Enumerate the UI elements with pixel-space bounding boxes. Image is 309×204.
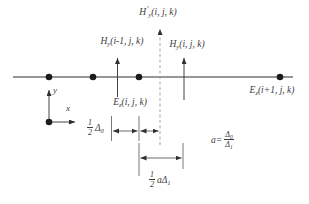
grid-node-dot [136, 74, 143, 81]
hy-right-label: Hy(i, j, k) [162, 39, 212, 49]
grading-ratio-label: a= Δ0 Δ1 [211, 131, 234, 149]
fraction: Δ0 Δ1 [224, 131, 233, 149]
fraction: 1 2 [87, 119, 93, 137]
x-axis-label: x [66, 104, 70, 114]
origin-dot [46, 119, 53, 126]
grid-node-dot [277, 74, 284, 81]
ez-center-label: Ez(i, j, k) [104, 97, 156, 107]
hy-left-label: Hy(i-1, j, k) [91, 36, 153, 46]
fraction: 1 2 [149, 171, 155, 189]
hy-prime-label: H′y(i, j, k) [133, 6, 183, 17]
grid-node-dot [46, 74, 53, 81]
grid-node-dot [90, 74, 97, 81]
fdtd-subgrid-diagram: H′y(i, j, k) Hy(i-1, j, k) Hy(i, j, k) E… [0, 0, 309, 204]
y-axis-label: y [53, 86, 57, 96]
half-a-delta1-label: 1 2 aΔ1 [149, 169, 171, 189]
ez-right-label: Ez(i+1, j, k) [243, 85, 301, 95]
half-delta0-label: 1 2 Δ0 [87, 117, 104, 137]
